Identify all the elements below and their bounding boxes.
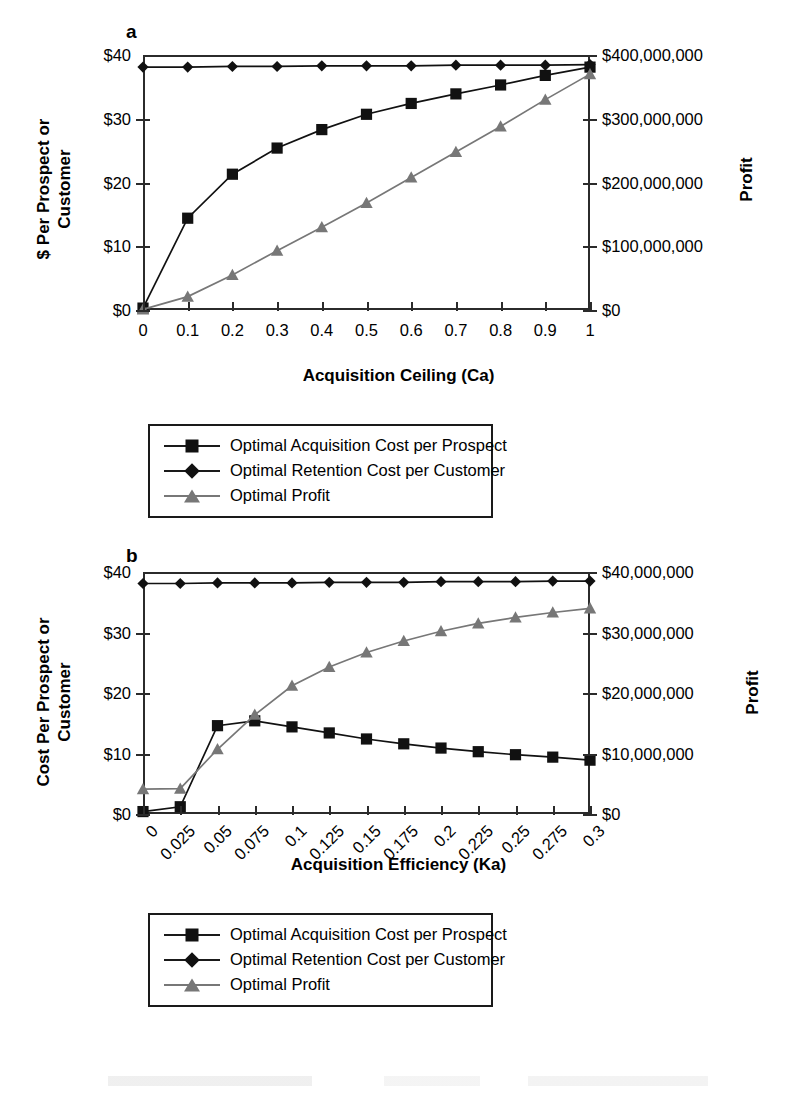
panel-b-diamond-marker — [137, 578, 148, 589]
panel-b-right-tick — [583, 572, 597, 574]
panel-b-x-tick-label: 0 — [143, 822, 161, 840]
panel-a-triangle-marker — [450, 146, 462, 157]
panel-b-x-tick-label: 0.3 — [580, 822, 608, 850]
page-bottom-cropped-text — [108, 1076, 708, 1086]
square-marker — [186, 928, 199, 941]
panel-b-right-axis-title: Profit — [742, 593, 763, 793]
panel-b-diamond-marker — [361, 577, 372, 588]
panel-a-diamond-marker — [361, 60, 372, 71]
panel-b-x-tick-label: 0.25 — [499, 822, 533, 856]
panel-a-triangle-marker — [316, 221, 328, 232]
panel-a-diamond-marker — [540, 60, 551, 71]
panel-b-left-tick-label: $10 — [103, 745, 131, 762]
legend-key-triangle-marker — [164, 976, 220, 994]
panel-b-line-triangle-marker — [143, 608, 590, 789]
chart-panel-b: b Cost Per Prospect or Customer Profit A… — [0, 530, 797, 1093]
legend-item-1[interactable]: Optimal Acquisition Cost per Prospect — [164, 922, 477, 947]
panel-a-x-tick — [545, 302, 547, 311]
panel-a-x-tick — [143, 302, 145, 311]
panel-a-x-tick — [232, 302, 234, 311]
panel-b-x-tick — [478, 806, 480, 815]
panel-a-right-tick — [583, 55, 597, 57]
legend-key-square-marker — [164, 926, 220, 944]
panel-b-square-marker — [435, 742, 446, 753]
panel-b-x-axis-title: Acquisition Efficiency (Ka) — [0, 855, 797, 875]
panel-b-square-marker — [324, 727, 335, 738]
panel-a-triangle-marker — [539, 93, 551, 104]
panel-b-diamond-marker — [249, 577, 260, 588]
panel-b-diamond-marker — [584, 575, 595, 586]
panel-b-x-tick — [218, 806, 220, 815]
panel-a-triangle-marker — [226, 269, 238, 280]
legend-key-square-marker — [164, 437, 220, 455]
panel-a-square-marker — [316, 124, 327, 135]
panel-a-right-tick-label: $200,000,000 — [602, 174, 703, 191]
panel-b-square-marker — [473, 746, 484, 757]
panel-b-left-tick-label: $0 — [113, 806, 131, 823]
panel-a-x-tick-label: 0.9 — [534, 322, 557, 339]
panel-b-diamond-marker — [435, 576, 446, 587]
panel-a-x-tick — [277, 302, 279, 311]
panel-a-x-tick — [501, 302, 503, 311]
legend-key-triangle-marker — [164, 487, 220, 505]
panel-b-x-tick-label: 0.05 — [201, 822, 235, 856]
panel-a-triangle-marker — [494, 120, 506, 131]
legend-item-2[interactable]: Optimal Retention Cost per Customer — [164, 947, 477, 972]
panel-a-right-tick — [583, 119, 597, 121]
panel-b-right-tick-label: $40,000,000 — [602, 564, 694, 581]
legend-item-2[interactable]: Optimal Retention Cost per Customer — [164, 458, 477, 483]
legend-label: Optimal Acquisition Cost per Prospect — [230, 926, 507, 943]
panel-b-square-marker — [361, 733, 372, 744]
panel-a-left-tick-label: $20 — [103, 174, 131, 191]
panel-a-x-tick — [322, 302, 324, 311]
panel-b-x-tick — [553, 806, 555, 815]
panel-a-triangle-marker — [182, 290, 194, 301]
panel-a-x-tick — [411, 302, 413, 311]
panel-b-diamond-marker — [175, 578, 186, 589]
panel-a-square-marker — [495, 79, 506, 90]
panel-b-triangle-marker — [286, 680, 298, 691]
legend-label: Optimal Retention Cost per Customer — [230, 462, 505, 479]
panel-a-left-tick — [136, 183, 150, 185]
panel-b-diamond-marker — [510, 576, 521, 587]
legend-item-3[interactable]: Optimal Profit — [164, 972, 477, 997]
panel-b-square-marker — [398, 738, 409, 749]
panel-b-diamond-marker — [398, 577, 409, 588]
panel-b-right-tick — [583, 754, 597, 756]
panel-a-x-tick-label: 0.3 — [266, 322, 289, 339]
panel-a-left-tick — [136, 119, 150, 121]
panel-a-diamond-marker — [495, 60, 506, 71]
panel-b-x-tick — [292, 806, 294, 815]
panel-b-x-tick-label: 0.1 — [282, 822, 310, 850]
panel-a-square-marker — [406, 98, 417, 109]
panel-b-x-tick — [180, 806, 182, 815]
panel-a-x-tick — [367, 302, 369, 311]
panel-b-square-marker — [510, 749, 521, 760]
panel-b-x-tick — [255, 806, 257, 815]
panel-b-x-tick — [590, 806, 592, 815]
panel-a-left-tick-label: $30 — [103, 111, 131, 128]
legend-item-1[interactable]: Optimal Acquisition Cost per Prospect — [164, 433, 477, 458]
panel-a-x-axis-title: Acquisition Ceiling (Ca) — [0, 366, 797, 386]
panel-a-diamond-marker — [406, 60, 417, 71]
panel-b-diamond-marker — [212, 577, 223, 588]
panel-a-diamond-marker — [272, 61, 283, 72]
panel-a-x-tick-label: 0.5 — [355, 322, 378, 339]
panel-a-square-marker — [540, 70, 551, 81]
panel-a-y-axis-title: $ Per Prospect or Customer — [33, 59, 75, 319]
panel-a-triangle-marker — [360, 197, 372, 208]
panel-b-y-axis-title: Cost Per Prospect or Customer — [33, 577, 75, 827]
panel-label-a: a — [126, 22, 137, 41]
panel-a-series-layer — [143, 55, 590, 310]
legend-item-3[interactable]: Optimal Profit — [164, 483, 477, 508]
legend-label: Optimal Retention Cost per Customer — [230, 951, 505, 968]
diamond-marker — [184, 952, 200, 968]
panel-b-x-tick — [404, 806, 406, 815]
legend-label: Optimal Profit — [230, 487, 330, 504]
panel-a-right-tick-label: $100,000,000 — [602, 238, 703, 255]
panel-b-x-tick — [329, 806, 331, 815]
panel-b-left-tick — [136, 693, 150, 695]
panel-a-x-tick-label: 0 — [138, 322, 147, 339]
panel-b-triangle-marker — [249, 709, 261, 720]
panel-a-legend: Optimal Acquisition Cost per ProspectOpt… — [148, 424, 493, 518]
